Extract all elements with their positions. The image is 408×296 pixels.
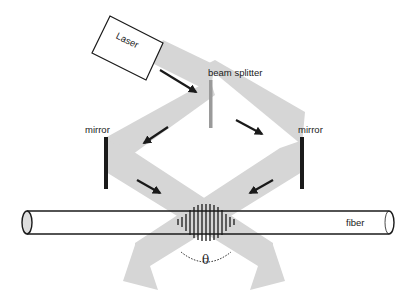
fiber-label: fiber (346, 217, 364, 228)
mirror-right-label: mirror (298, 124, 323, 135)
beam-splitter-label: beam splitter (208, 67, 262, 78)
beam-splitter-plate (209, 80, 213, 128)
angle-theta-label: θ (202, 253, 209, 267)
mirror-right: mirror (298, 124, 323, 189)
angle-marker: θ (181, 252, 231, 267)
fiber-right-end-inner (385, 211, 389, 234)
arrow-upper-right-icon (236, 120, 262, 134)
laser: Laser (92, 16, 163, 80)
laser-box (92, 16, 163, 80)
mirror-right-plate (300, 137, 304, 189)
mirror-left-label: mirror (85, 124, 110, 135)
mirror-left: mirror (85, 124, 110, 189)
mirror-left-plate (104, 137, 108, 189)
fiber-right-end (389, 211, 394, 234)
fiber-left-end (22, 211, 32, 234)
interference-diagram: Laser beam splitter mirror mirror fiber (0, 0, 408, 296)
